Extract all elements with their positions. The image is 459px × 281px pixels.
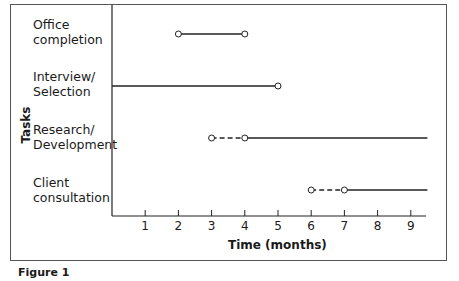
figure-caption: Figure 1 xyxy=(18,266,69,279)
x-axis-title: Time (months) xyxy=(228,238,327,252)
task-bar xyxy=(175,31,247,37)
x-tick-label: 4 xyxy=(238,219,252,233)
x-tick-label: 6 xyxy=(304,219,318,233)
x-tick-label: 5 xyxy=(271,219,285,233)
task-bar xyxy=(112,83,281,89)
x-axis-ticks xyxy=(145,210,411,216)
x-tick-label: 9 xyxy=(404,219,418,233)
x-tick-label: 1 xyxy=(138,219,152,233)
x-tick-label: 7 xyxy=(337,219,351,233)
task-bar xyxy=(308,187,427,193)
x-tick-label: 2 xyxy=(171,219,185,233)
x-tick-label: 3 xyxy=(205,219,219,233)
task-bars xyxy=(112,31,427,193)
x-tick-label: 8 xyxy=(371,219,385,233)
task-bar xyxy=(209,135,428,141)
